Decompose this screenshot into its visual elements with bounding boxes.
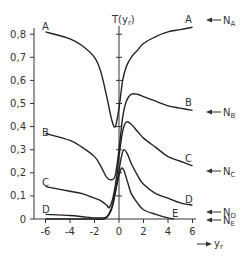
svg-text:yr: yr <box>214 238 223 251</box>
x-tick-label: -6 <box>41 226 51 237</box>
svg-text:NB: NB <box>223 107 235 120</box>
curve-label-right-b: B <box>185 97 192 108</box>
asymptote-b: NB <box>206 107 235 120</box>
x-tick-label: -4 <box>65 226 75 237</box>
y-tick-label: 0,5 <box>10 98 26 109</box>
asymptote-a: NA <box>206 15 235 28</box>
y-axis-title: T(yr) <box>111 14 135 27</box>
curve-label-left-b: B <box>42 127 49 138</box>
asymptote-d: ND <box>206 207 236 220</box>
svg-text:NA: NA <box>223 15 235 28</box>
arrowhead-icon <box>206 218 212 223</box>
x-axis-title: yr <box>197 238 223 251</box>
asymptote-c: NC <box>206 166 235 179</box>
x-tick-label: -2 <box>90 226 100 237</box>
svg-text:NC: NC <box>223 166 235 179</box>
curve-label-right-c: C <box>185 153 192 164</box>
y-tick-label: 0,8 <box>10 29 26 40</box>
curve-label-right-a: A <box>185 14 192 25</box>
curve-label-left-a: A <box>42 21 49 32</box>
curve-label-right-e: E <box>172 208 178 219</box>
x-tick-label: 6 <box>189 226 195 237</box>
x-tick-label: 2 <box>140 226 146 237</box>
arrowhead-icon <box>206 169 212 174</box>
x-tick-label: 4 <box>165 226 171 237</box>
arrowhead-icon <box>206 210 212 215</box>
curve-label-left-c: C <box>42 177 49 188</box>
y-tick-label: 0,4 <box>10 121 26 132</box>
chart-svg: 00,10,20,30,40,50,60,70,8 -6-4-20246 T(y… <box>0 0 249 259</box>
y-tick-label: 0 <box>20 214 26 225</box>
curve-label-left-d: D <box>42 204 50 215</box>
y-tick-label: 0,7 <box>10 52 26 63</box>
x-tick-label: 0 <box>116 226 122 237</box>
curve-label-right-d: D <box>185 194 193 205</box>
asymptote-markers: NANBNCNDNE <box>206 15 236 228</box>
arrowhead-icon <box>206 18 212 23</box>
arrowhead-icon <box>206 242 212 247</box>
y-tick-label: 0,3 <box>10 144 26 155</box>
transmission-chart: 00,10,20,30,40,50,60,70,8 -6-4-20246 T(y… <box>0 0 249 259</box>
x-tick-labels: -6-4-20246 <box>41 226 196 237</box>
y-tick-label: 0,2 <box>10 167 26 178</box>
y-tick-label: 0,6 <box>10 75 26 86</box>
arrowhead-icon <box>206 110 212 115</box>
y-tick-labels: 00,10,20,30,40,50,60,70,8 <box>10 29 26 225</box>
y-tick-label: 0,1 <box>10 190 26 201</box>
